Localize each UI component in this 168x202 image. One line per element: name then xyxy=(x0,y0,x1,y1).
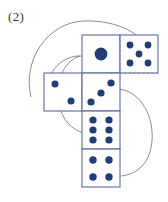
pip xyxy=(145,60,152,67)
pip xyxy=(89,173,96,180)
pip xyxy=(87,98,94,105)
pip xyxy=(127,42,134,49)
pip xyxy=(105,126,112,133)
pip xyxy=(105,116,112,123)
pip xyxy=(97,89,104,96)
pip xyxy=(89,156,96,163)
pip xyxy=(107,79,114,86)
pip xyxy=(89,136,96,143)
pip xyxy=(105,173,112,180)
pip xyxy=(127,60,134,67)
pip xyxy=(68,98,75,105)
pips-face-one xyxy=(95,48,108,61)
pip xyxy=(89,126,96,133)
pip xyxy=(89,116,96,123)
curve-right-bulge-icon xyxy=(119,89,152,176)
square-face-four xyxy=(82,149,120,187)
pip xyxy=(105,136,112,143)
pip xyxy=(105,156,112,163)
dice-net-figure xyxy=(0,0,168,202)
pip xyxy=(95,48,108,61)
square-face-two xyxy=(44,73,82,111)
pip xyxy=(52,81,59,88)
pip xyxy=(136,51,143,58)
square-face-six xyxy=(82,111,120,149)
pip xyxy=(145,42,152,49)
